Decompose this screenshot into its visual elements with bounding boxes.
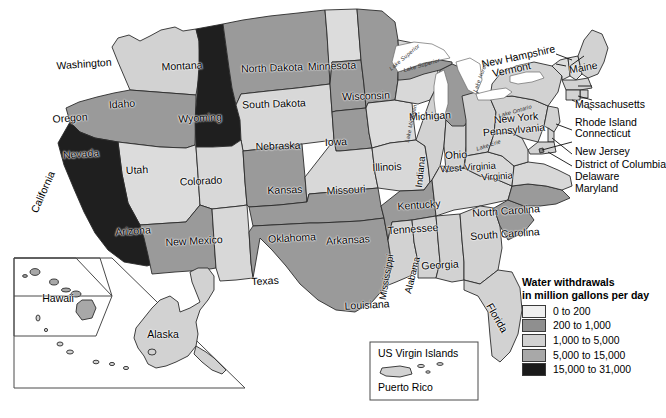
legend-row[interactable]: 15,000 to 31,000 <box>522 362 658 377</box>
territory-st-john[interactable] <box>426 371 430 373</box>
state-texas[interactable] <box>249 218 392 312</box>
state-maine[interactable] <box>578 30 608 78</box>
state-mississippi[interactable] <box>412 216 440 278</box>
state-nebraska[interactable] <box>332 108 372 151</box>
state-district-of-columbia[interactable] <box>539 148 544 153</box>
lake-michigan <box>434 70 448 118</box>
state-missouri[interactable] <box>372 140 430 191</box>
hawaii-island-maui[interactable] <box>71 291 81 297</box>
hawaii-island-big-island[interactable] <box>76 300 96 320</box>
legend-swatch-15000-to-31000 <box>522 363 546 376</box>
state-florida[interactable] <box>464 270 522 362</box>
map-legend: Water withdrawalsin million gallons per … <box>522 276 658 377</box>
alaska-aleutian-island-1[interactable] <box>36 315 40 321</box>
alaska-aleutian-island-7[interactable] <box>123 366 128 369</box>
legend-label-1000-to-5000: 1,000 to 5,000 <box>553 335 619 346</box>
legend-title: Water withdrawalsin million gallons per … <box>522 276 658 301</box>
leader-connecticut <box>572 100 592 110</box>
alaska-aleutian-island-3[interactable] <box>57 342 63 346</box>
leader-new-jersey <box>556 124 572 130</box>
legend-title-line1: Water withdrawals <box>522 276 615 288</box>
legend-swatch-5000-to-15000 <box>522 349 546 362</box>
hawaii-island-kauai[interactable] <box>30 269 40 276</box>
legend-label-0-to-200: 0 to 200 <box>553 306 591 317</box>
territory-st-thomas[interactable] <box>418 364 425 367</box>
alaska-kodiak-island[interactable] <box>148 349 156 355</box>
legend-label-15000-to-31000: 15,000 to 31,000 <box>553 364 631 375</box>
hawaii-island-oahu[interactable] <box>50 279 59 285</box>
state-south-dakota[interactable] <box>330 60 366 112</box>
alaska-aleutian-island-2[interactable] <box>44 328 47 331</box>
hawaii-island-niihau[interactable] <box>23 275 28 278</box>
alaska-aleutian-island-5[interactable] <box>93 360 99 364</box>
territory-st-croix[interactable] <box>437 363 443 366</box>
legend-swatch-1000-to-5000 <box>522 334 546 347</box>
hawaii-inset-frame <box>14 258 112 336</box>
legend-swatch-200-to-1000 <box>522 319 546 332</box>
state-utah[interactable] <box>196 140 247 209</box>
state-massachusetts[interactable] <box>562 78 592 90</box>
state-wyoming[interactable] <box>236 84 334 151</box>
legend-title-line2: in million gallons per day <box>522 289 649 301</box>
alaska-aleutian-island-4[interactable] <box>67 350 74 354</box>
legend-swatch-0-to-200 <box>522 305 546 318</box>
alaska-panhandle[interactable] <box>194 346 226 374</box>
legend-row[interactable]: 0 to 200 <box>522 304 658 319</box>
territory-puerto-rico[interactable] <box>380 366 412 377</box>
alaska-aleutian-island-6[interactable] <box>109 362 114 365</box>
state-colorado[interactable] <box>243 144 307 207</box>
leader-maryland <box>548 152 572 166</box>
state-alabama[interactable] <box>436 214 464 282</box>
state-connecticut[interactable] <box>566 90 580 100</box>
state-new-mexico[interactable] <box>212 205 253 281</box>
legend-row[interactable]: 1,000 to 5,000 <box>522 333 658 348</box>
state-washington[interactable] <box>112 27 200 95</box>
legend-label-5000-to-15000: 5,000 to 15,000 <box>553 350 625 361</box>
legend-label-200-to-1000: 200 to 1,000 <box>553 320 611 331</box>
legend-row[interactable]: 200 to 1,000 <box>522 319 658 334</box>
legend-row[interactable]: 5,000 to 15,000 <box>522 348 658 363</box>
hawaii-island-molokai[interactable] <box>61 288 70 292</box>
